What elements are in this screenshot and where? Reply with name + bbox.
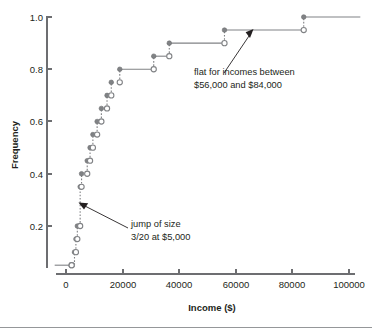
jump-annotation-line2: 3/20 at $5,000 xyxy=(131,232,190,242)
data-point-open xyxy=(75,236,80,241)
data-point-open xyxy=(167,54,172,59)
y-tick-label: 0.8 xyxy=(30,64,43,75)
data-point-closed xyxy=(79,171,84,176)
x-tick-label: 20000 xyxy=(110,279,136,290)
x-tick-label: 100000 xyxy=(333,279,365,290)
data-point-closed xyxy=(167,41,172,46)
y-tick-label: 0.2 xyxy=(30,221,43,232)
x-axis-title: Income ($) xyxy=(188,302,236,313)
flat-annotation-line2: $56,000 and $84,000 xyxy=(194,80,282,90)
y-axis-ticks: 1.0 0.8 0.6 0.4 0.2 xyxy=(30,12,52,232)
data-point-open xyxy=(99,119,104,124)
data-point-open xyxy=(73,250,78,255)
data-point-open xyxy=(87,158,92,163)
data-point-open xyxy=(69,263,74,268)
data-point-open xyxy=(79,184,84,189)
ecdf-series xyxy=(55,15,361,268)
x-axis-ticks: 0 20000 40000 60000 80000 100000 xyxy=(63,269,365,290)
data-point-open xyxy=(301,27,306,32)
x-tick-label: 60000 xyxy=(223,279,249,290)
data-point-open xyxy=(104,106,109,111)
data-point-open xyxy=(151,67,156,72)
data-point-closed xyxy=(301,15,306,20)
y-tick-label: 1.0 xyxy=(30,12,43,23)
data-point-open xyxy=(90,145,95,150)
data-point-open xyxy=(78,223,83,228)
flat-annotation: flat for incomes between $56,000 and $84… xyxy=(194,29,295,90)
data-point-closed xyxy=(117,67,122,72)
y-tick-label: 0.4 xyxy=(30,169,43,180)
jump-annotation-leader xyxy=(83,205,128,228)
y-axis-title: Frequency xyxy=(9,120,20,169)
data-point-closed xyxy=(99,106,104,111)
y-tick-label: 0.6 xyxy=(30,116,43,127)
ecdf-chart: 1.0 0.8 0.6 0.4 0.2 0 20000 40000 60000 … xyxy=(0,0,372,334)
x-tick-label: 0 xyxy=(63,279,68,290)
x-tick-label: 80000 xyxy=(279,279,305,290)
data-point-open xyxy=(117,80,122,85)
data-point-open xyxy=(95,132,100,137)
data-point-closed xyxy=(222,28,227,33)
data-point-open xyxy=(109,93,114,98)
x-tick-label: 40000 xyxy=(166,279,192,290)
data-point-open xyxy=(222,41,227,46)
jump-annotation: jump of size 3/20 at $5,000 xyxy=(79,203,191,242)
jump-annotation-line1: jump of size xyxy=(130,219,181,229)
data-point-open xyxy=(85,171,90,176)
chart-figure: 1.0 0.8 0.6 0.4 0.2 0 20000 40000 60000 … xyxy=(0,0,372,334)
flat-annotation-line1: flat for incomes between xyxy=(194,67,295,77)
data-point-closed xyxy=(151,54,156,59)
data-point-closed xyxy=(109,80,114,85)
